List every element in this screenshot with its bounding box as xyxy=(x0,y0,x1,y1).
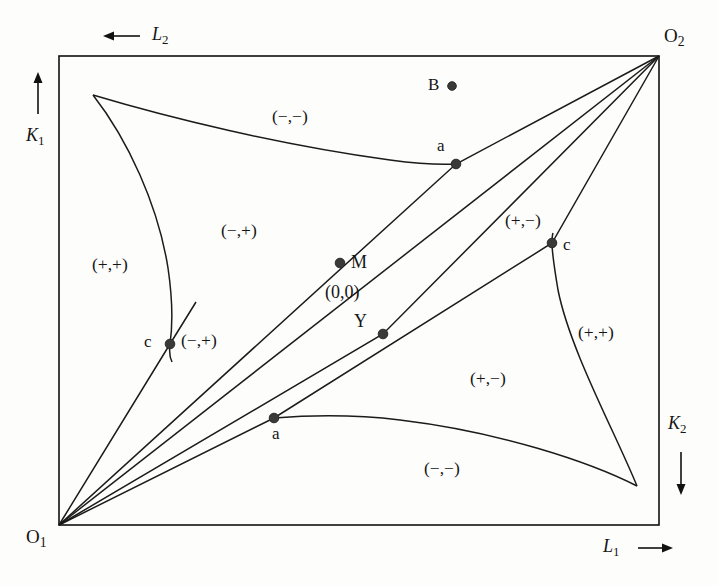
axis-arrow-K2 xyxy=(677,452,686,495)
origin-label-O1: O1 xyxy=(26,527,47,550)
region-label-upper-plus-minus: (+,−) xyxy=(505,212,541,230)
curve-upper-left-inner xyxy=(93,95,172,362)
point-label-Y: Y xyxy=(354,312,367,330)
axis-label-L2: L2 xyxy=(152,25,169,47)
region-label-upper-minus-plus: (−,+) xyxy=(221,222,257,240)
region-label-lower-plus-minus: (+,−) xyxy=(470,370,506,388)
point-label-c-left: c xyxy=(144,333,152,350)
origin-label-O2: O2 xyxy=(664,26,685,49)
point-dot-Y[interactable] xyxy=(378,329,388,339)
region-label-lower-minus-plus: (−,+) xyxy=(181,332,217,350)
point-label-c-right: c xyxy=(563,236,571,253)
point-label-a-lower: a xyxy=(272,425,280,442)
point-dot-a-upper[interactable] xyxy=(451,159,461,169)
axis-arrow-L2 xyxy=(103,32,140,41)
point-dot-a-lower[interactable] xyxy=(269,413,279,423)
point-label-M-coordinates: (0,0) xyxy=(325,283,360,301)
edgeworth-box-figure: O2 O1 K1 K2 L2 L1 B a c M (0,0) Y c a (−… xyxy=(0,0,718,586)
axis-arrow-K1 xyxy=(34,72,43,114)
axis-arrow-L1 xyxy=(638,544,673,553)
region-label-right-plus-plus: (+,+) xyxy=(578,324,614,342)
axis-label-L1: L1 xyxy=(603,537,620,559)
point-label-a-upper: a xyxy=(437,137,445,154)
point-dot-c-left[interactable] xyxy=(165,339,175,349)
axis-label-K2: K2 xyxy=(668,414,687,436)
axis-label-K1: K1 xyxy=(26,126,45,148)
point-dot-c-right[interactable] xyxy=(547,238,557,248)
point-label-M: M xyxy=(351,253,367,271)
region-label-top-minus-minus: (−,−) xyxy=(272,108,308,126)
region-label-bottom-minus-minus: (−,−) xyxy=(424,460,460,478)
point-label-B: B xyxy=(428,76,439,93)
curve-lower-right-outer xyxy=(552,233,637,486)
point-dot-B[interactable] xyxy=(448,82,457,91)
region-label-left-plus-plus: (+,+) xyxy=(92,256,128,274)
point-dot-M[interactable] xyxy=(335,258,345,268)
